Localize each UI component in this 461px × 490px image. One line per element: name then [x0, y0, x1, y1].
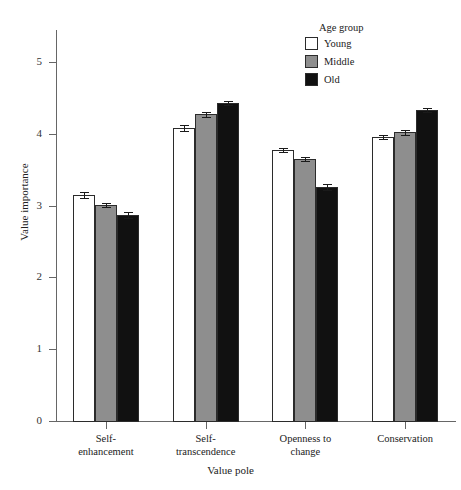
bar-old-2 — [316, 187, 338, 422]
y-tick-5 — [49, 62, 56, 63]
x-group-label-1: Self-transcendence — [151, 432, 261, 458]
x-label-line: Conservation — [350, 432, 460, 445]
bar-old-0 — [117, 215, 139, 422]
error-cap-lower — [124, 218, 133, 219]
x-group-label-3: Conservation — [350, 432, 460, 445]
bar-middle-0 — [95, 205, 117, 422]
error-cap-lower — [279, 152, 288, 153]
bar-old-3 — [416, 110, 438, 422]
legend-swatch-icon-old — [305, 73, 318, 86]
y-tick-label-0: 0 — [22, 415, 42, 426]
error-cap-lower — [224, 105, 233, 106]
error-cap-upper — [379, 135, 388, 136]
legend-swatch-icon-middle — [305, 55, 318, 68]
y-tick-0 — [49, 421, 56, 422]
legend: Age group YoungMiddleOld — [305, 22, 415, 91]
error-cap-upper — [180, 125, 189, 126]
error-cap-lower — [102, 207, 111, 208]
bar-young-2 — [272, 150, 294, 422]
legend-item-middle: Middle — [305, 55, 415, 68]
legend-label-old: Old — [324, 74, 340, 85]
legend-label-middle: Middle — [324, 56, 354, 67]
error-cap-lower — [401, 135, 410, 136]
y-tick-3 — [49, 206, 56, 207]
bar-middle-1 — [195, 114, 217, 422]
error-cap-lower — [80, 198, 89, 199]
error-cap-upper — [224, 101, 233, 102]
error-cap-lower — [301, 161, 310, 162]
x-group-label-0: Self-enhancement — [51, 432, 161, 458]
bar-middle-2 — [294, 159, 316, 422]
legend-label-young: Young — [324, 38, 352, 49]
legend-title: Age group — [319, 22, 415, 33]
x-tick-0 — [106, 422, 107, 429]
error-cap-upper — [102, 203, 111, 204]
y-tick-1 — [49, 349, 56, 350]
x-label-line: Self- — [151, 432, 261, 445]
y-tick-label-5: 5 — [22, 56, 42, 67]
y-axis-title: Value importance — [18, 132, 30, 272]
error-cap-lower — [202, 117, 211, 118]
error-cap-upper — [202, 112, 211, 113]
bar-young-1 — [173, 128, 195, 422]
bar-chart-figure: 012345 Value importance Value pole Self-… — [0, 0, 461, 490]
y-tick-label-1: 1 — [22, 343, 42, 354]
error-cap-lower — [423, 112, 432, 113]
x-tick-3 — [405, 422, 406, 429]
error-cap-upper — [80, 192, 89, 193]
x-label-line: change — [250, 445, 360, 458]
legend-swatch-icon-young — [305, 37, 318, 50]
legend-item-young: Young — [305, 37, 415, 50]
x-tick-2 — [305, 422, 306, 429]
bar-middle-3 — [394, 132, 416, 422]
y-tick-label-2: 2 — [22, 271, 42, 282]
bar-old-1 — [217, 103, 239, 422]
x-label-line: Self- — [51, 432, 161, 445]
error-cap-upper — [401, 130, 410, 131]
error-cap-upper — [323, 184, 332, 185]
error-cap-upper — [301, 157, 310, 158]
legend-item-old: Old — [305, 73, 415, 86]
error-cap-lower — [323, 190, 332, 191]
y-tick-2 — [49, 277, 56, 278]
error-cap-upper — [423, 108, 432, 109]
x-group-label-2: Openness tochange — [250, 432, 360, 458]
error-cap-upper — [124, 212, 133, 213]
y-tick-4 — [49, 134, 56, 135]
x-label-line: transcendence — [151, 445, 261, 458]
legend-entries: YoungMiddleOld — [305, 37, 415, 86]
error-cap-lower — [180, 131, 189, 132]
error-cap-upper — [279, 148, 288, 149]
bar-young-0 — [73, 195, 95, 422]
x-label-line: enhancement — [51, 445, 161, 458]
x-tick-1 — [206, 422, 207, 429]
bar-young-3 — [372, 137, 394, 422]
x-axis-title: Value pole — [0, 464, 461, 476]
error-cap-lower — [379, 139, 388, 140]
x-label-line: Openness to — [250, 432, 360, 445]
